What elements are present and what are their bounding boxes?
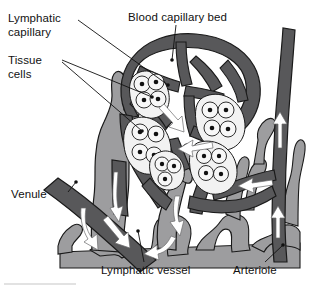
anchor-blood-capillary-bed (170, 58, 174, 62)
capillary-strut-a (176, 42, 192, 86)
label-venule: Venule (11, 188, 47, 202)
diagram-canvas (0, 0, 317, 292)
anatomical-diagram-lymphatic-capillary: Lymphatic capillary Tissue cells Blood c… (0, 0, 317, 292)
label-blood-capillary-bed: Blood capillary bed (128, 11, 227, 25)
capillary-strut-c (190, 56, 222, 92)
anchor-venule (74, 180, 78, 184)
lymphatic-finger-mid-right (254, 118, 275, 164)
anchor-arteriole (281, 243, 285, 247)
lymphatic-branch-venule-side (58, 224, 82, 254)
label-arteriole: Arteriole (233, 264, 277, 278)
anchor-lymphatic-capillary (166, 83, 170, 87)
anchor-lymphatic-vessel (136, 229, 140, 233)
label-tissue-cells: Tissue cells (8, 54, 42, 81)
anchor-tissue-cells-a (150, 95, 154, 99)
label-lymphatic-capillary: Lymphatic capillary (8, 12, 61, 39)
label-lymphatic-vessel: Lymphatic vessel (101, 264, 190, 278)
anchor-tissue-cells-b (140, 129, 144, 133)
